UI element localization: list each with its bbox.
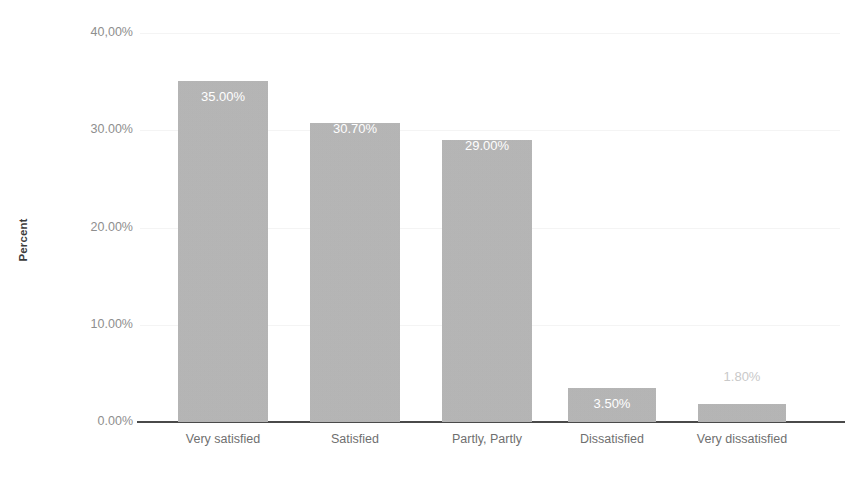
bar-chart: Percent 40,00% 30.00% 20.00% 10.00% 0.00… xyxy=(0,0,855,479)
bar-value-label-dissatisfied: 3.50% xyxy=(568,396,656,411)
y-tick-label-20: 20.00% xyxy=(33,220,133,234)
category-label-partly-partly: Partly, Partly xyxy=(427,432,547,446)
category-label-very-dissatisfied: Very dissatisfied xyxy=(672,432,812,446)
category-label-dissatisfied: Dissatisfied xyxy=(552,432,672,446)
y-tick-label-10: 10.00% xyxy=(33,317,133,331)
bar-value-label-very-dissatisfied: 1.80% xyxy=(698,369,786,384)
y-axis-tick-labels: 40,00% 30.00% 20.00% 10.00% 0.00% xyxy=(33,0,133,479)
bar-very-satisfied[interactable] xyxy=(178,81,268,422)
y-tick-label-0: 0.00% xyxy=(33,414,133,428)
y-tick-label-30: 30.00% xyxy=(33,122,133,136)
bar-very-dissatisfied[interactable] xyxy=(698,404,786,422)
bar-value-label-very-satisfied: 35.00% xyxy=(178,89,268,104)
gridline-40 xyxy=(140,33,840,34)
bar-value-label-satisfied: 30.70% xyxy=(310,121,400,136)
category-label-satisfied: Satisfied xyxy=(295,432,415,446)
bar-value-label-partly-partly: 29.00% xyxy=(442,138,532,153)
bar-partly-partly[interactable] xyxy=(442,140,532,422)
y-axis-title-text: Percent xyxy=(17,218,29,261)
bar-satisfied[interactable] xyxy=(310,123,400,422)
category-label-very-satisfied: Very satisfied xyxy=(163,432,283,446)
y-tick-label-40: 40,00% xyxy=(33,25,133,39)
